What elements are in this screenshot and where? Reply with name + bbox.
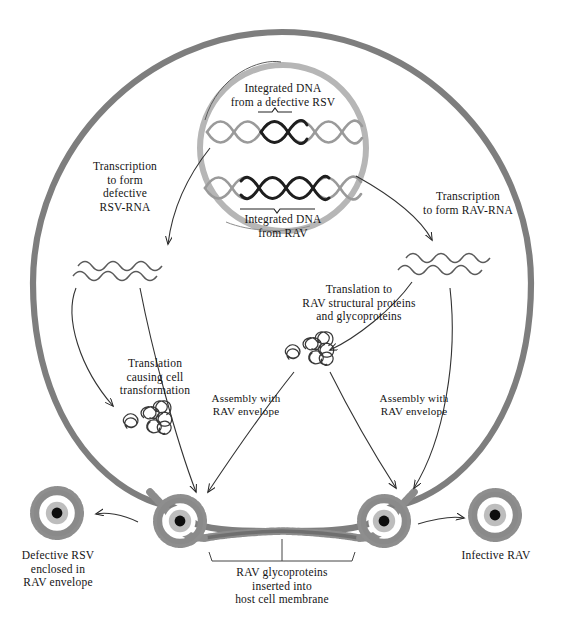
rav-rna [398, 254, 490, 275]
arrow-protein-to-left-bud [208, 372, 294, 492]
label-membrane-note: RAV glycoproteins inserted into host cel… [202, 566, 362, 607]
label-transcription-right: Transcription to form RAV-RNA [400, 190, 536, 217]
label-dna-bottom: Integrated DNA from RAV [221, 213, 345, 240]
dna-helix-defective-rsv [207, 108, 362, 144]
label-dna-top: Integrated DNA from a defective RSV [213, 82, 353, 109]
label-product-right: Infective RAV [443, 549, 549, 563]
label-assembly-right: Assembly with RAV envelope [362, 392, 466, 418]
diagram-canvas: Integrated DNA from a defective RSV Inte… [0, 0, 564, 620]
arrow-protein-to-right-bud [330, 372, 396, 488]
label-product-left: Defective RSV enclosed in RAV envelope [6, 549, 110, 590]
transforming-protein-aggregate [123, 401, 171, 435]
defective-rsv-rna [73, 262, 162, 281]
infective-rav [472, 492, 519, 539]
arrow-release-right [418, 517, 464, 524]
label-transcription-left: Transcription to form defective RSV-RNA [73, 160, 177, 214]
label-translation-rav: Translation to RAV structural proteins a… [274, 283, 444, 324]
label-assembly-left: Assembly with RAV envelope [194, 392, 298, 418]
defective-rsv-in-rav-envelope [34, 490, 81, 537]
arrow-release-left [96, 513, 138, 522]
rav-structural-protein-aggregate [285, 332, 333, 366]
membrane-note-brace [209, 539, 355, 561]
